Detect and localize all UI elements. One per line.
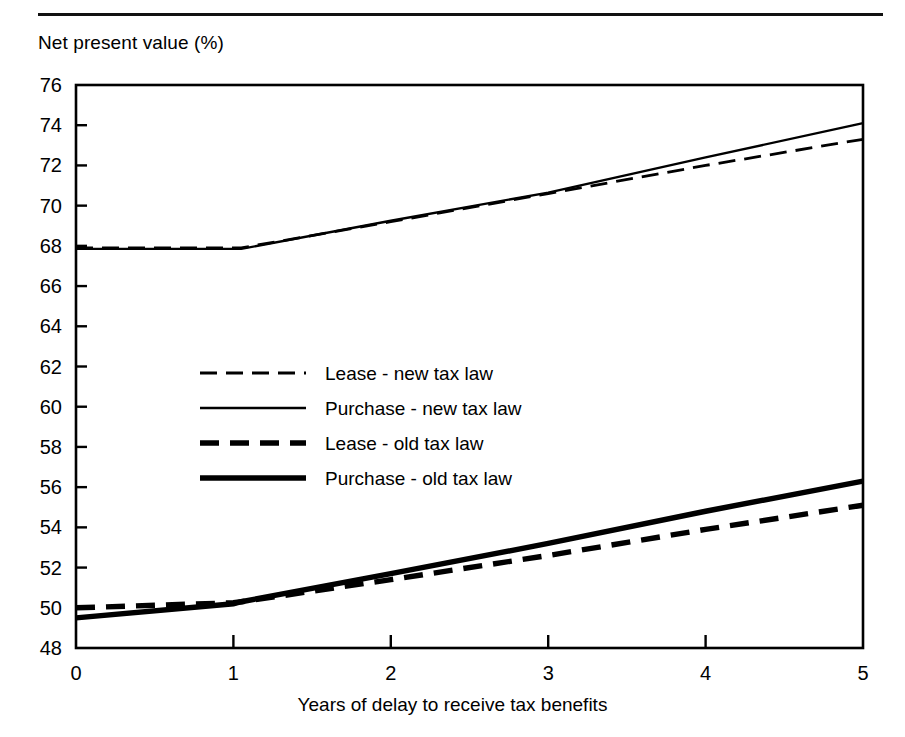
y-tick-label: 60: [40, 396, 62, 418]
legend-label-2: Lease - old tax law: [325, 434, 483, 453]
y-tick-label: 70: [40, 195, 62, 217]
y-tick-label: 52: [40, 557, 62, 579]
x-tick-label: 3: [543, 662, 554, 684]
y-tick-label: 76: [40, 74, 62, 96]
y-tick-label: 74: [40, 114, 62, 136]
series-line-1: [76, 123, 863, 249]
y-tick-label: 58: [40, 436, 62, 458]
y-tick-label: 48: [40, 637, 62, 659]
x-tick-label: 2: [385, 662, 396, 684]
y-tick-label: 66: [40, 275, 62, 297]
x-tick-label: 1: [228, 662, 239, 684]
series-line-3: [76, 481, 863, 618]
legend-label-3: Purchase - old tax law: [325, 469, 512, 488]
series-line-0: [76, 139, 863, 248]
legend-label-1: Purchase - new tax law: [325, 399, 521, 418]
y-tick-label: 72: [40, 154, 62, 176]
x-axis-title: Years of delay to receive tax benefits: [0, 694, 905, 716]
y-tick-label: 56: [40, 476, 62, 498]
x-tick-label: 5: [857, 662, 868, 684]
y-tick-label: 50: [40, 597, 62, 619]
legend-label-0: Lease - new tax law: [325, 364, 493, 383]
figure-container: Net present value (%) 767472706866646260…: [0, 0, 905, 737]
y-tick-label: 62: [40, 356, 62, 378]
y-tick-label: 54: [40, 516, 62, 538]
y-tick-label: 64: [40, 315, 62, 337]
y-tick-label: 68: [40, 235, 62, 257]
x-tick-label: 0: [70, 662, 81, 684]
x-tick-label: 4: [700, 662, 711, 684]
